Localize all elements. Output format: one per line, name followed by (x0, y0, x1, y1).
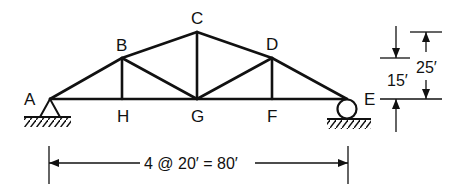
dimension-span: 4 @ 20′ = 80′ (144, 155, 238, 172)
member-dg (197, 58, 272, 99)
member-de (272, 58, 347, 99)
member-bg (122, 58, 197, 99)
member-cd (197, 32, 272, 58)
node-label-d: D (266, 35, 278, 54)
truss-diagram: A B C D E H G F 15′ 25′ 4 @ 20′ = 80′ (0, 0, 459, 186)
node-label-e: E (364, 90, 375, 109)
member-bc (122, 32, 197, 58)
node-label-g: G (191, 107, 204, 126)
node-label-c: C (191, 9, 203, 28)
node-label-h: H (117, 107, 129, 126)
dimension-total-height: 25′ (416, 59, 437, 76)
node-labels: A B C D E H G F (24, 9, 375, 126)
member-ab (50, 58, 122, 99)
truss-members (50, 32, 347, 99)
node-label-b: B (116, 36, 127, 55)
node-label-f: F (267, 107, 277, 126)
node-label-a: A (24, 90, 36, 109)
dimension-inner-height: 15′ (387, 72, 408, 89)
